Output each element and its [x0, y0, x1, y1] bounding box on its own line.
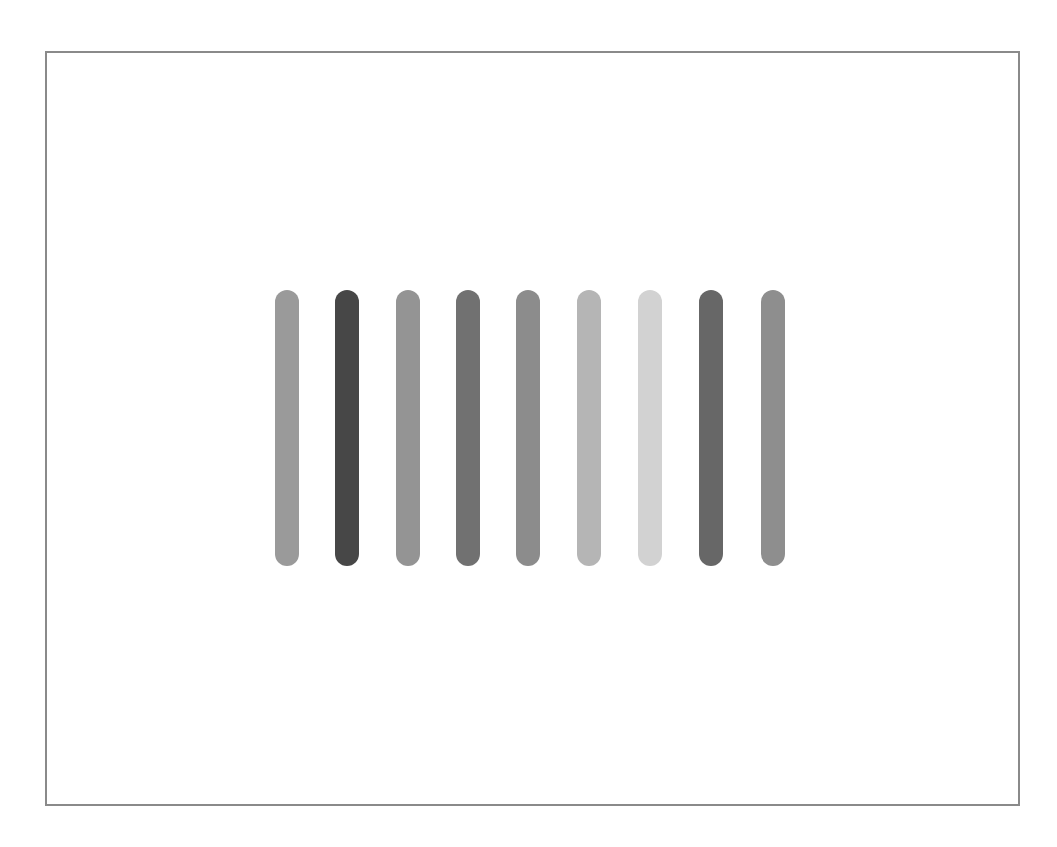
bar-3: [396, 290, 420, 566]
bar-8: [699, 290, 723, 566]
bar-9: [761, 290, 785, 566]
bar-group: [0, 0, 1057, 847]
bar-6: [577, 290, 601, 566]
bar-7: [638, 290, 662, 566]
bar-4: [456, 290, 480, 566]
bar-5: [516, 290, 540, 566]
bar-1: [275, 290, 299, 566]
bar-2: [335, 290, 359, 566]
